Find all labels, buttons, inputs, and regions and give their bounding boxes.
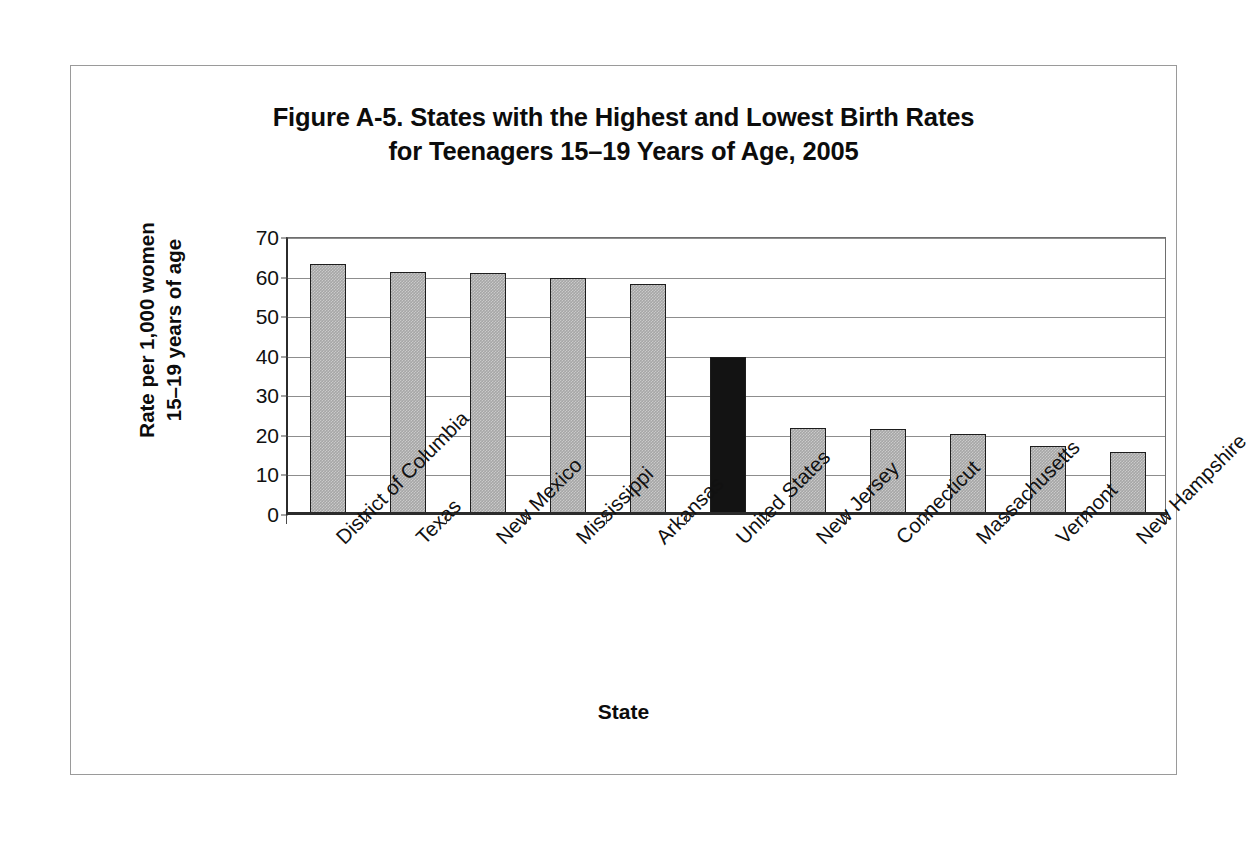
y-axis-title: Rate per 1,000 women 15–19 years of age [130, 185, 190, 475]
x-tick-mark [526, 515, 527, 524]
x-tick-mark [286, 515, 287, 524]
y-tick-mark [281, 317, 288, 318]
x-tick-mark [1166, 515, 1167, 524]
x-axis-title: State [71, 700, 1176, 724]
y-tick-mark [281, 277, 288, 278]
y-tick-mark [281, 435, 288, 436]
bar-series [288, 238, 1165, 514]
x-tick-mark [686, 515, 687, 524]
y-tick-label: 60 [256, 266, 279, 290]
y-tick-mark [281, 475, 288, 476]
y-tick-label: 0 [267, 503, 279, 527]
y-tick-mark [281, 396, 288, 397]
y-tick-mark [281, 356, 288, 357]
x-tick-mark [446, 515, 447, 524]
x-tick-mark [1006, 515, 1007, 524]
bar [710, 357, 746, 514]
y-tick-label: 20 [256, 424, 279, 448]
bar [390, 272, 426, 514]
y-tick-label: 40 [256, 345, 279, 369]
bar [950, 434, 986, 514]
x-tick-mark [1086, 515, 1087, 524]
x-axis-line [286, 512, 1168, 515]
bar [1030, 446, 1066, 514]
x-tick-mark [926, 515, 927, 524]
y-tick-label: 50 [256, 305, 279, 329]
x-tick-mark [606, 515, 607, 524]
bar [470, 273, 506, 514]
bar [790, 428, 826, 514]
bar [310, 264, 346, 514]
bar [870, 429, 906, 514]
y-tick-label: 30 [256, 384, 279, 408]
plot-area: 010203040506070 [286, 237, 1166, 514]
y-tick-label: 10 [256, 463, 279, 487]
x-tick-mark [846, 515, 847, 524]
bar [1110, 452, 1146, 514]
chart-title: Figure A-5. States with the Highest and … [71, 101, 1176, 168]
x-tick-mark [766, 515, 767, 524]
bar [550, 278, 586, 514]
y-tick-label: 70 [256, 226, 279, 250]
y-tick-mark [281, 238, 288, 239]
figure-frame: Figure A-5. States with the Highest and … [70, 65, 1177, 775]
bar [630, 284, 666, 514]
x-tick-mark [366, 515, 367, 524]
